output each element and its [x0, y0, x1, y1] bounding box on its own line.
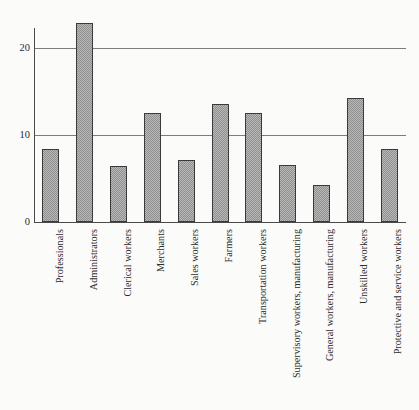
- bar: [313, 185, 330, 222]
- bar: [279, 165, 296, 222]
- y-tick-10: 10: [0, 130, 30, 140]
- x-axis-label: Administrators: [89, 229, 99, 290]
- bar: [178, 160, 195, 222]
- x-axis-label: Transportation workers: [258, 229, 268, 324]
- x-axis-label: Professionals: [55, 229, 65, 283]
- x-axis-category-labels: ProfessionalsAdministratorsClerical work…: [0, 223, 419, 410]
- x-axis-label: Clerical workers: [123, 229, 133, 297]
- bar: [42, 149, 59, 222]
- x-axis-label: Sales workers: [190, 229, 200, 286]
- bar: [347, 98, 364, 222]
- x-axis-label: Farmers: [224, 229, 234, 262]
- y-tick-label: 10: [4, 130, 30, 140]
- bar: [76, 23, 93, 222]
- bar: [144, 113, 161, 222]
- bar: [212, 104, 229, 222]
- x-axis-label: Protective and service workers: [393, 229, 403, 354]
- y-tick-20: 20: [0, 43, 30, 53]
- bar: [381, 149, 398, 222]
- y-axis-line: [34, 28, 35, 223]
- x-axis-label: Merchants: [156, 229, 166, 272]
- plot-area: 01020: [0, 0, 419, 240]
- bar-chart: 01020 ProfessionalsAdministratorsClerica…: [0, 0, 419, 410]
- x-axis-label: Unskilled workers: [359, 229, 369, 304]
- bar: [110, 166, 127, 222]
- x-axis-label: Supervisory workers, manufacturing: [292, 229, 302, 378]
- x-axis-label: General workers, manufacturing: [325, 229, 335, 361]
- y-tick-label: 20: [4, 43, 30, 53]
- bar: [245, 113, 262, 222]
